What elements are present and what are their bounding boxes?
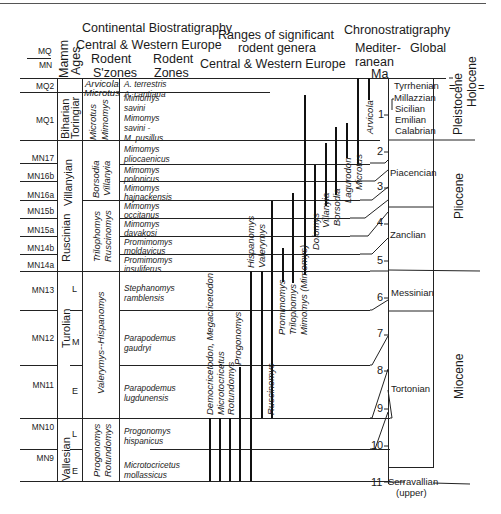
stage-messinian: Messinian bbox=[391, 288, 434, 298]
epoch-miocene: Miocene bbox=[453, 354, 465, 399]
stage-calabrian: Calabrian bbox=[395, 126, 436, 136]
stage-tortonian: Tortonian bbox=[391, 384, 430, 394]
stage-tyrrhenian: Tyrrhenian bbox=[394, 81, 439, 91]
stage-piacencian: Piacencian bbox=[390, 168, 436, 178]
epoch-pliocene: Pliocene bbox=[453, 173, 465, 219]
stage-serravallian-note: (upper) bbox=[396, 488, 427, 498]
holocene-mark: = bbox=[478, 82, 484, 93]
stage-serravallian: Serravallian bbox=[388, 477, 438, 487]
holocene-mark: = bbox=[449, 82, 455, 93]
stage-emilian: Emilian bbox=[395, 115, 426, 125]
stage-zanclian: Zanclian bbox=[390, 230, 426, 240]
epoch-holocene: Holocene bbox=[466, 56, 478, 107]
stage-sicilian: Sicilian bbox=[395, 104, 425, 114]
stage-millazzian: Millazzian bbox=[394, 93, 436, 103]
connector-lines bbox=[0, 0, 501, 514]
